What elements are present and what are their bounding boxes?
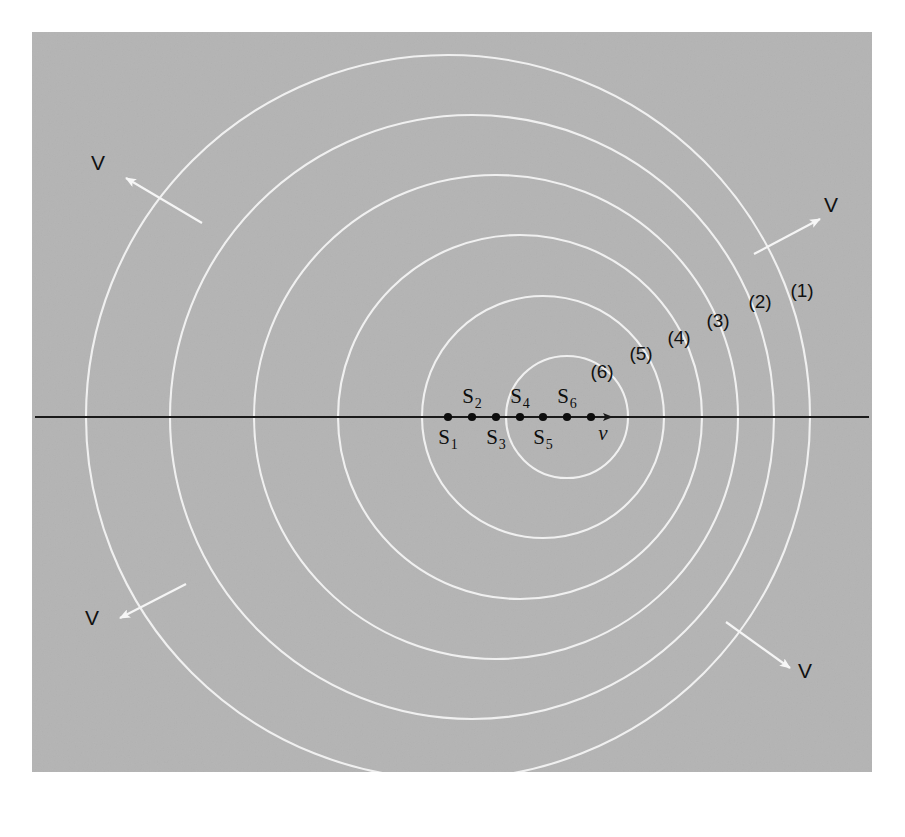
source-label-sub-S4: 4 xyxy=(523,396,530,411)
figure-root: S1S2S3S4S5S6 v (1)(2)(3)(4)(5)(6) VVVV xyxy=(0,0,905,837)
wavefront-label-4: (4) xyxy=(667,327,690,348)
doppler-wavefront-diagram: S1S2S3S4S5S6 v (1)(2)(3)(4)(5)(6) VVVV xyxy=(0,0,905,837)
wave-velocity-label-2: V xyxy=(824,193,838,216)
wavefront-label-5: (5) xyxy=(629,343,652,364)
wave-velocity-label-1: V xyxy=(91,151,105,174)
source-dot-4 xyxy=(516,413,524,421)
source-dot-6 xyxy=(563,413,571,421)
source-label-sub-S3: 3 xyxy=(499,437,506,452)
source-dot-7 xyxy=(587,413,595,421)
wave-velocity-label-4: V xyxy=(798,659,812,682)
wave-velocity-label-3: V xyxy=(85,606,99,629)
source-label-sub-S5: 5 xyxy=(546,437,553,452)
source-label-sub-S6: 6 xyxy=(570,396,577,411)
wavefront-label-3: (3) xyxy=(706,310,729,331)
wavefront-label-2: (2) xyxy=(748,291,771,312)
source-label-sub-S1: 1 xyxy=(451,437,458,452)
source-label-sub-S2: 2 xyxy=(475,396,482,411)
source-dot-2 xyxy=(468,413,476,421)
source-dot-1 xyxy=(444,413,452,421)
source-dot-5 xyxy=(539,413,547,421)
wavefront-label-1: (1) xyxy=(790,280,813,301)
source-dot-3 xyxy=(492,413,500,421)
figure-panel xyxy=(32,32,872,772)
wavefront-label-6: (6) xyxy=(590,361,613,382)
source-velocity-label: v xyxy=(598,421,608,445)
